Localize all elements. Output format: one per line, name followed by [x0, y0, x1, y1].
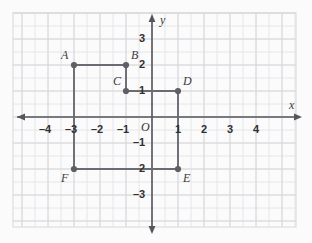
x-axis-label: x — [289, 99, 294, 111]
point-label-c: C — [113, 75, 121, 87]
y-tick-neg2: 2 — [139, 163, 145, 174]
y-axis-label: y — [160, 14, 165, 26]
major-gridlines — [13, 13, 296, 227]
x-tick-pos2: 2 — [201, 124, 207, 135]
x-tick-neg3: –3 — [65, 124, 77, 135]
x-tick-neg1: –1 — [117, 124, 129, 135]
coordinate-plane — [0, 0, 312, 243]
point-label-f: F — [61, 172, 68, 184]
origin-label: O — [141, 121, 150, 133]
x-tick-pos1: 1 — [175, 124, 181, 135]
y-tick-pos3: 3 — [139, 33, 145, 44]
y-tick-neg3: –3 — [133, 189, 145, 200]
y-tick-pos1: 1 — [139, 85, 145, 96]
coordinate-grid-figure: ABCDEFxyO–4–3–2–11234321–12–3 — [0, 0, 312, 243]
y-tick-neg1: –1 — [133, 137, 145, 148]
axis-lines — [17, 14, 302, 234]
point-label-b: B — [131, 49, 138, 61]
x-tick-neg2: –2 — [91, 124, 103, 135]
y-tick-pos2: 2 — [139, 59, 145, 70]
point-label-d: D — [183, 75, 192, 87]
point-label-a: A — [61, 49, 68, 61]
x-tick-pos3: 3 — [227, 124, 233, 135]
x-tick-neg4: –4 — [39, 124, 51, 135]
point-label-e: E — [183, 172, 190, 184]
x-tick-pos4: 4 — [253, 124, 259, 135]
